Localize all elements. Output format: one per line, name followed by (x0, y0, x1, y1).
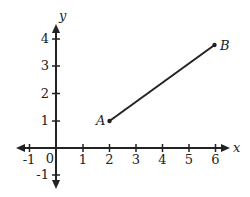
x-axis-right-arrow-icon (221, 144, 230, 152)
y-tick-label: 3 (41, 58, 49, 73)
y-tick-label: -1 (36, 167, 49, 182)
y-tick-label: 1 (41, 113, 49, 128)
y-tick-label: 4 (41, 31, 49, 46)
x-tick-label: 5 (185, 152, 193, 167)
x-axis-left-arrow-icon (16, 144, 25, 152)
x-tick-label: 2 (105, 152, 113, 167)
x-tick-label: 3 (132, 152, 140, 167)
x-tick-label: 4 (158, 152, 166, 167)
y-axis-down-arrow-icon (52, 180, 60, 189)
point-a-label: A (95, 113, 105, 128)
x-tick-label: 1 (79, 152, 87, 167)
x-tick-label: 6 (211, 152, 219, 167)
y-axis-label: y (58, 8, 67, 23)
x-tick-label: -1 (23, 152, 36, 167)
point-b-label: B (219, 38, 230, 53)
coordinate-plane: -1 0 1 2 3 4 5 6 4 3 2 1 -1 x y A B (0, 0, 250, 197)
segment-ab (110, 45, 215, 121)
origin-label: 0 (46, 151, 54, 166)
point-a (107, 119, 111, 123)
y-axis-up-arrow-icon (52, 24, 60, 33)
y-tick-label: 2 (41, 86, 49, 101)
x-axis-label: x (233, 140, 241, 155)
point-b (212, 43, 216, 47)
